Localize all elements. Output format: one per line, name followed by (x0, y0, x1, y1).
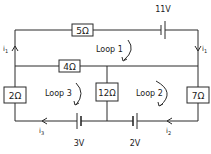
loop-2: Loop 2 (136, 81, 167, 106)
resistor-5-label: 5Ω (76, 26, 89, 36)
circuit-diagram: 5Ω 4Ω 2Ω 12Ω 7Ω 11V 3V 2V Loop 1 Loop 3 (0, 0, 211, 154)
resistor-12-ohm: 12Ω (96, 83, 118, 101)
loop-2-label: Loop 2 (136, 89, 163, 98)
loop-1-arrow-icon (124, 40, 131, 60)
current-left-top: i1 (3, 45, 18, 54)
battery-3v-label: 3V (74, 139, 85, 148)
resistor-7-ohm: 7Ω (187, 87, 209, 103)
battery-11v-label: 11V (155, 5, 171, 14)
resistor-4-label: 4Ω (63, 62, 76, 72)
svg-text:i1: i1 (202, 45, 207, 54)
current-right-top: i1 (195, 45, 207, 54)
battery-2v: 2V (130, 113, 141, 148)
svg-text:i1: i1 (3, 45, 8, 54)
battery-2v-label: 2V (130, 139, 141, 148)
svg-text:i2: i2 (166, 127, 171, 136)
loop-1-label: Loop 1 (96, 45, 123, 54)
loop-3-label: Loop 3 (45, 89, 72, 98)
battery-3v: 3V (74, 113, 85, 148)
loop-1: Loop 1 (96, 40, 131, 61)
svg-text:i3: i3 (39, 127, 44, 136)
resistor-5-ohm: 5Ω (72, 24, 93, 36)
wires (15, 30, 198, 121)
resistor-2-label: 2Ω (9, 91, 22, 101)
loop-3-arrow-icon (76, 83, 81, 105)
battery-11v: 11V (155, 5, 171, 39)
resistor-2-ohm: 2Ω (4, 87, 26, 103)
resistor-4-ohm: 4Ω (59, 60, 80, 72)
resistor-7-label: 7Ω (192, 91, 205, 101)
loop-3: Loop 3 (45, 83, 81, 105)
resistor-12-label: 12Ω (98, 88, 116, 98)
